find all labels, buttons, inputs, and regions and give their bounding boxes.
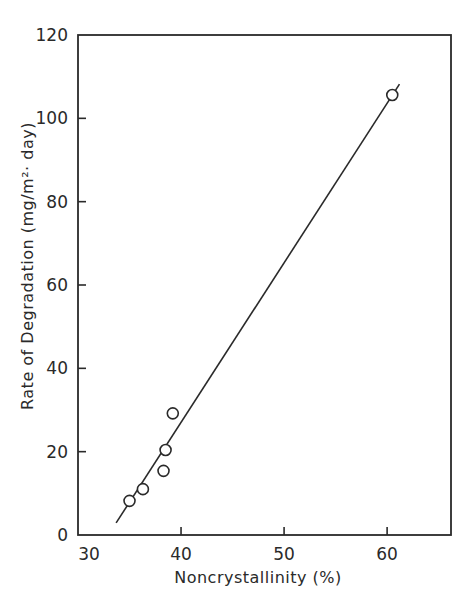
y-tick-label: 60 <box>46 275 68 295</box>
data-point-open-circle <box>167 408 178 419</box>
data-point-open-circle <box>387 90 398 101</box>
y-tick-label: 100 <box>36 108 68 128</box>
y-tick-label: 40 <box>46 358 68 378</box>
scatter-chart: 30405060 020406080100120 Noncrystallinit… <box>0 0 470 597</box>
x-tick-label: 40 <box>170 544 192 564</box>
y-axis-label: Rate of Degradation (mg/m²· day) <box>18 122 37 410</box>
plot-frame <box>78 35 451 535</box>
data-point-open-circle <box>137 484 148 495</box>
regression-line <box>116 84 399 523</box>
data-point-open-circle <box>160 445 171 456</box>
y-tick-label: 0 <box>57 525 68 545</box>
x-axis-ticks: 30405060 <box>78 527 398 564</box>
plot-border <box>78 35 451 535</box>
data-point-open-circle <box>124 495 135 506</box>
y-tick-label: 20 <box>46 442 68 462</box>
fit-line <box>116 84 399 523</box>
x-tick-label: 50 <box>273 544 295 564</box>
y-tick-label: 80 <box>46 192 68 212</box>
x-tick-label: 60 <box>376 544 398 564</box>
x-tick-label: 30 <box>78 544 100 564</box>
x-axis-label: Noncrystallinity (%) <box>174 568 342 587</box>
y-tick-label: 120 <box>36 25 68 45</box>
data-point-open-circle <box>158 465 169 476</box>
